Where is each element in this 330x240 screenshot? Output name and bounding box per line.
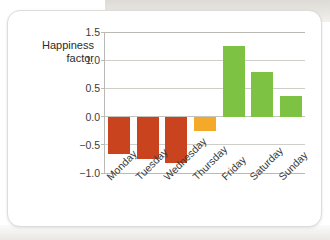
- bar-sunday[interactable]: [280, 96, 302, 116]
- y-axis-title-line-1: Happiness: [22, 39, 94, 52]
- scan-shadow-bottom: [0, 225, 330, 240]
- chart-card: Happiness factor 1.51.00.50.0−0.5−1.0 Mo…: [7, 10, 322, 227]
- y-tick-mark: [101, 32, 105, 33]
- y-tick-mark: [101, 144, 105, 145]
- y-tick-label: 1.5: [85, 26, 100, 38]
- gridline-1_5: [105, 32, 305, 34]
- gridline-0_5: [105, 88, 305, 89]
- bar-thursday[interactable]: [194, 117, 216, 132]
- y-tick-label: 0.5: [85, 82, 100, 94]
- gridline-1: [105, 60, 305, 61]
- bar-friday[interactable]: [223, 46, 245, 117]
- y-axis-title: Happiness factor: [22, 39, 94, 65]
- y-tick-mark: [101, 60, 105, 61]
- x-axis-labels: MondayTuesdayWednesdayThursdayFridaySatu…: [104, 174, 304, 226]
- bar-monday[interactable]: [108, 117, 130, 155]
- bar-saturday[interactable]: [251, 72, 273, 117]
- y-tick-label: −0.5: [79, 139, 100, 151]
- y-tick-label: 0.0: [85, 111, 100, 123]
- y-tick-mark: [101, 116, 105, 117]
- y-tick-label: 1.0: [85, 54, 100, 66]
- y-tick-label: −1.0: [79, 167, 100, 179]
- y-tick-mark: [101, 88, 105, 89]
- y-axis-title-line-2: factor: [22, 52, 94, 65]
